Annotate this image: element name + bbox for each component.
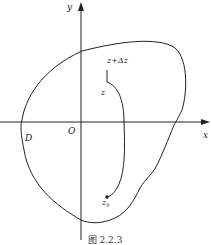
z0-label: z0 xyxy=(101,198,109,208)
region-label: D xyxy=(24,133,32,143)
figure-caption: 图 2.2.3 xyxy=(88,235,123,245)
z-label: z xyxy=(100,88,106,97)
diagram-canvas: y x O D z+Δz z z0 图 2.2.3 xyxy=(0,0,211,245)
integration-path xyxy=(107,70,124,197)
x-axis-arrow-icon xyxy=(201,119,210,125)
region-d-boundary xyxy=(21,41,186,222)
y-axis-label: y xyxy=(66,2,73,12)
z-plus-dz-label: z+Δz xyxy=(106,56,129,65)
origin-label: O xyxy=(68,126,76,136)
x-axis-label: x xyxy=(203,130,208,140)
y-axis-arrow-icon xyxy=(78,2,84,11)
x-axis xyxy=(0,119,210,125)
y-axis xyxy=(78,2,84,240)
